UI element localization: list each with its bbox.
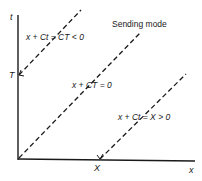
t-marker-label: T (9, 71, 15, 80)
equation-zero: x + CT = 0 (72, 81, 112, 90)
x-axis-label: x (189, 166, 194, 175)
characteristic-line-negative (19, 10, 81, 75)
characteristics-diagram (0, 0, 202, 181)
equation-positive: x + Ct = X > 0 (118, 113, 170, 122)
sending-mode-title: Sending mode (112, 20, 167, 29)
t-axis-label: t (10, 13, 13, 22)
characteristic-line-zero (19, 33, 140, 158)
x-axis (18, 159, 195, 161)
x-marker-label: X (94, 164, 100, 173)
equation-negative: x + Ct = CT < 0 (26, 33, 84, 42)
